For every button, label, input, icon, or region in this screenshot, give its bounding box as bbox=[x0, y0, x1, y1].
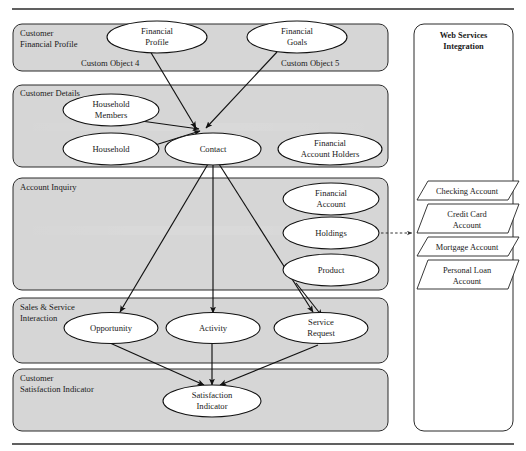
node-label-line-1: Satisfaction bbox=[192, 390, 233, 400]
node-label-line-1: Household bbox=[92, 99, 130, 109]
custom-object-4-label: Custom Object 4 bbox=[81, 58, 140, 68]
node-household-members[interactable]: Household Members bbox=[63, 94, 159, 126]
ws-item-label: Checking Account bbox=[436, 187, 499, 196]
ws-item-credit-card-account[interactable]: Credit Card Account bbox=[417, 204, 519, 233]
lane-title-line-1: Customer bbox=[20, 373, 54, 383]
node-household[interactable]: Household bbox=[63, 133, 159, 165]
node-financial-profile[interactable]: Financial Profile bbox=[107, 21, 207, 53]
node-label-line-2: Request bbox=[307, 328, 335, 338]
node-product[interactable]: Product bbox=[283, 254, 379, 286]
lane-title-line-2: Interaction bbox=[20, 313, 58, 323]
node-satisfaction-indicator[interactable]: Satisfaction Indicator bbox=[163, 385, 261, 417]
ws-item-checking-account[interactable]: Checking Account bbox=[417, 181, 519, 200]
node-label-line-2: Members bbox=[95, 110, 128, 120]
node-label-line-1: Financial bbox=[314, 138, 347, 148]
node-label: Household bbox=[92, 144, 130, 154]
node-service-request[interactable]: Service Request bbox=[274, 313, 368, 344]
node-financial-goals[interactable]: Financial Goals bbox=[247, 21, 347, 53]
ws-item-mortgage-account[interactable]: Mortgage Account bbox=[417, 237, 519, 256]
node-opportunity[interactable]: Opportunity bbox=[64, 313, 158, 344]
node-label: Activity bbox=[199, 323, 228, 333]
ws-item-label-line-1: Credit Card bbox=[447, 210, 487, 219]
node-activity[interactable]: Activity bbox=[166, 313, 260, 344]
node-label: Holdings bbox=[315, 228, 347, 238]
panel-title-line-1: Web Services bbox=[440, 31, 488, 40]
node-label-line-1: Service bbox=[308, 317, 334, 327]
node-financial-account[interactable]: Financial Account bbox=[283, 183, 379, 215]
node-holdings[interactable]: Holdings bbox=[283, 217, 379, 249]
lane-title-line-1: Customer bbox=[20, 28, 54, 38]
lane-title-line-1: Customer Details bbox=[20, 88, 81, 98]
ws-item-label-line-2: Account bbox=[453, 221, 482, 230]
node-label-line-1: Financial bbox=[141, 26, 174, 36]
node-financial-account-holders[interactable]: Financial Account Holders bbox=[278, 133, 382, 165]
ws-item-label: Mortgage Account bbox=[436, 243, 499, 252]
node-label-line-2: Profile bbox=[145, 37, 169, 47]
node-label-line-2: Indicator bbox=[196, 401, 227, 411]
node-label-line-2: Account bbox=[316, 199, 346, 209]
node-label-line-2: Goals bbox=[287, 37, 308, 47]
diagram-page: Customer Financial Profile Custom Object… bbox=[0, 0, 526, 451]
lane-title-line-1: Account Inquiry bbox=[20, 182, 77, 192]
node-label-line-2: Account Holders bbox=[301, 149, 360, 159]
ws-item-personal-loan-account[interactable]: Personal Loan Account bbox=[417, 260, 519, 289]
scan-artifact bbox=[14, 123, 387, 131]
node-label-line-1: Financial bbox=[281, 26, 314, 36]
lane-title-line-1: Sales & Service bbox=[20, 302, 75, 312]
web-services-integration-panel: Web Services Integration Checking Accoun… bbox=[414, 24, 519, 431]
ws-item-label-line-2: Account bbox=[453, 277, 482, 286]
node-label-line-1: Financial bbox=[315, 188, 348, 198]
node-label: Product bbox=[318, 265, 345, 275]
node-label: Contact bbox=[200, 144, 227, 154]
ws-item-label-line-1: Personal Loan bbox=[443, 266, 492, 275]
node-label: Opportunity bbox=[90, 323, 133, 333]
panel-title-line-2: Integration bbox=[443, 42, 484, 51]
custom-object-5-label: Custom Object 5 bbox=[281, 58, 339, 68]
lane-title-line-2: Financial Profile bbox=[20, 39, 78, 49]
node-contact[interactable]: Contact bbox=[165, 133, 261, 165]
lane-title-line-2: Satisfaction Indicator bbox=[20, 384, 94, 394]
